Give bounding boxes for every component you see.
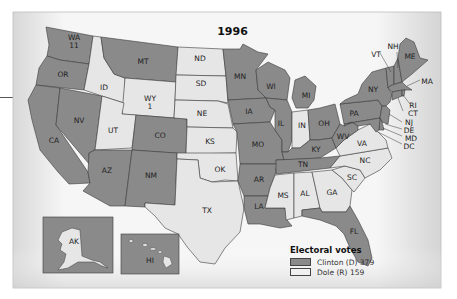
label-MN: MN — [234, 73, 246, 81]
label-SC: SC — [347, 174, 357, 182]
dole-swatch — [290, 268, 311, 276]
label-VA: VA — [357, 140, 367, 148]
label-LA: LA — [254, 203, 263, 211]
label-MO: MO — [252, 141, 264, 149]
label-OR: OR — [57, 71, 68, 79]
label-NY: NY — [368, 86, 378, 94]
label-TN: TN — [298, 161, 308, 169]
label-OK: OK — [215, 166, 226, 174]
label-UT: UT — [108, 127, 118, 135]
legend-title: Electoral votes — [290, 245, 374, 255]
label-GA: GA — [327, 189, 338, 197]
legend-item-clinton: Clinton (D) 379 — [290, 257, 374, 267]
label-KY: KY — [311, 146, 320, 154]
label-NC: NC — [360, 157, 371, 165]
label-CO: CO — [154, 132, 165, 140]
label-NM: NM — [145, 172, 157, 180]
label-DC: DC — [403, 143, 414, 151]
label-CA: CA — [49, 137, 59, 145]
legend-label-clinton: Clinton (D) 379 — [317, 258, 374, 267]
label-NE: NE — [197, 110, 207, 118]
label-ID: ID — [100, 84, 108, 92]
label-WA: WA11 — [68, 34, 80, 50]
label-MS: MS — [277, 192, 288, 200]
legend: Electoral votes Clinton (D) 379 Dole (R)… — [290, 245, 374, 277]
label-MA: MA — [421, 78, 433, 86]
label-MI: MI — [302, 92, 311, 100]
label-ND: ND — [194, 55, 205, 63]
label-HI: HI — [146, 257, 154, 265]
label-NH: NH — [387, 43, 398, 51]
legend-item-dole: Dole (R) 159 — [290, 267, 374, 277]
label-TX: TX — [202, 207, 212, 215]
label-IL: IL — [278, 120, 284, 128]
label-KS: KS — [205, 138, 215, 146]
label-FL: FL — [350, 228, 359, 236]
label-IA: IA — [245, 108, 252, 116]
label-IN: IN — [298, 122, 306, 130]
label-AL: AL — [300, 190, 309, 198]
label-WV: WV — [337, 133, 350, 141]
label-PA: PA — [349, 110, 358, 118]
label-AZ: AZ — [102, 167, 112, 175]
label-AK: AK — [69, 238, 79, 246]
legend-label-dole: Dole (R) 159 — [317, 268, 364, 277]
label-OH: OH — [318, 120, 330, 128]
label-WY: WY1 — [144, 95, 156, 111]
label-ME: ME — [404, 53, 415, 61]
clinton-swatch — [290, 258, 311, 266]
label-CT: CT — [408, 110, 418, 118]
label-MT: MT — [137, 58, 148, 66]
label-SD: SD — [196, 80, 207, 88]
label-AR: AR — [254, 176, 264, 184]
label-NV: NV — [74, 117, 85, 125]
label-WI: WI — [266, 83, 276, 91]
label-VT: VT — [371, 51, 381, 59]
